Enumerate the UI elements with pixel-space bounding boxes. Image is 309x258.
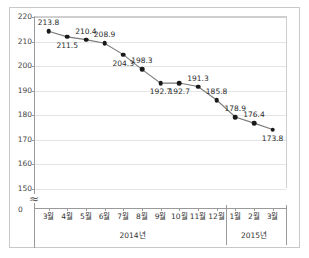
x-axis-group-label: 2014년 bbox=[120, 229, 146, 240]
gridline bbox=[35, 140, 286, 141]
x-axis-tick-mark bbox=[161, 208, 162, 211]
data-point bbox=[196, 84, 201, 89]
data-point-label: 191.3 bbox=[187, 75, 208, 83]
x-axis-tick-mark bbox=[49, 208, 50, 211]
x-axis-tick-mark bbox=[235, 208, 236, 211]
data-point-label: 185.8 bbox=[206, 88, 227, 96]
x-axis-group-label: 2015년 bbox=[241, 229, 267, 240]
data-point-label: 198.3 bbox=[131, 57, 152, 65]
x-axis-tick-label: 2월 bbox=[248, 212, 260, 221]
x-axis-tick-label: 1월 bbox=[229, 212, 241, 221]
data-point-label: 176.4 bbox=[243, 111, 264, 119]
data-point-label: 211.5 bbox=[56, 42, 77, 50]
data-point-label: 208.9 bbox=[94, 31, 115, 39]
x-axis-tick-mark bbox=[254, 208, 255, 211]
x-axis-tick-label: 6월 bbox=[99, 212, 111, 221]
x-axis-tick-mark bbox=[179, 208, 180, 211]
x-axis-tick-mark bbox=[217, 208, 218, 211]
data-point bbox=[140, 67, 145, 72]
x-axis-tick-label: 4월 bbox=[61, 212, 73, 221]
data-point bbox=[233, 115, 238, 120]
y-axis-tick-label: 180 bbox=[18, 111, 32, 119]
gridline bbox=[35, 17, 286, 18]
y-axis-tick-mark bbox=[32, 17, 35, 18]
x-axis-tick-label: 7월 bbox=[117, 212, 129, 221]
x-axis-tick-mark bbox=[123, 208, 124, 211]
data-point bbox=[121, 52, 126, 57]
data-point bbox=[46, 29, 51, 34]
x-axis-tick-label: 9월 bbox=[155, 212, 167, 221]
x-axis-tick-label: 11월 bbox=[190, 212, 207, 221]
data-point bbox=[177, 81, 182, 86]
x-axis-group-separator bbox=[286, 205, 287, 245]
data-point bbox=[84, 37, 89, 42]
x-axis-group-separator bbox=[226, 205, 227, 245]
y-axis-tick-mark bbox=[32, 164, 35, 165]
x-axis-group-separator bbox=[34, 205, 35, 245]
data-point bbox=[270, 127, 275, 132]
y-axis-tick-label: 200 bbox=[18, 62, 32, 70]
x-axis-tick-mark bbox=[86, 208, 87, 211]
y-axis-tick-label: 210 bbox=[18, 38, 32, 46]
data-point bbox=[252, 121, 257, 126]
gridline bbox=[35, 164, 286, 165]
y-axis-tick-mark bbox=[32, 140, 35, 141]
x-axis-tick-mark bbox=[198, 208, 199, 211]
y-axis-tick-label: 190 bbox=[18, 87, 32, 95]
data-point bbox=[102, 41, 107, 46]
x-axis-tick-label: 8월 bbox=[136, 212, 148, 221]
x-axis-tick-label: 3월 bbox=[43, 212, 55, 221]
x-axis-tick-mark bbox=[67, 208, 68, 211]
y-axis-tick-label: 220 bbox=[18, 13, 32, 21]
x-axis-tick-mark bbox=[105, 208, 106, 211]
y-axis-zero-label: 0 bbox=[18, 205, 23, 214]
gridline bbox=[35, 189, 286, 190]
y-axis-tick-label: 160 bbox=[18, 160, 32, 168]
data-point-label: 213.8 bbox=[38, 19, 59, 27]
x-axis-tick-label: 10월 bbox=[171, 212, 188, 221]
y-axis-tick-mark bbox=[32, 66, 35, 67]
x-axis-tick-label: 5월 bbox=[80, 212, 92, 221]
x-axis-tick-mark bbox=[273, 208, 274, 211]
x-axis-tick-label: 12월 bbox=[208, 212, 225, 221]
y-axis-tick-label: 170 bbox=[18, 136, 32, 144]
y-axis-tick-mark bbox=[32, 42, 35, 43]
x-axis-tick-label: 3월 bbox=[267, 212, 279, 221]
x-axis-tick-mark bbox=[142, 208, 143, 211]
data-point bbox=[214, 98, 219, 103]
data-point-label: 192.7 bbox=[169, 88, 190, 96]
data-point-label: 173.8 bbox=[262, 135, 283, 143]
y-axis-tick-mark bbox=[32, 115, 35, 116]
data-point bbox=[65, 35, 70, 40]
gridline bbox=[35, 66, 286, 67]
y-axis-tick-mark bbox=[32, 91, 35, 92]
data-point bbox=[158, 81, 163, 86]
